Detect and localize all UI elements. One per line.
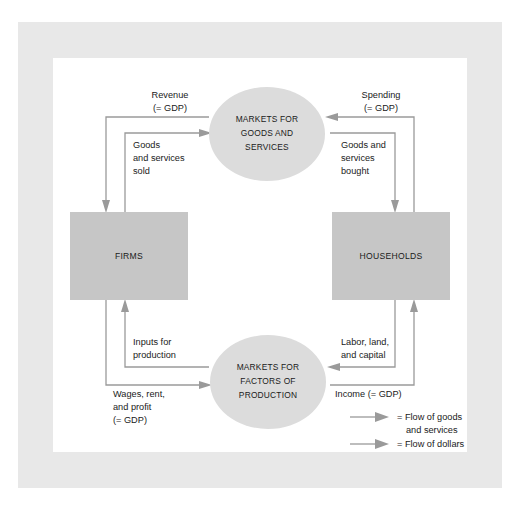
legend-dollars-text-line-1: = Flow of dollars (397, 439, 465, 449)
label-goods-bought: Goods and services bought (341, 140, 386, 176)
label-spending: Spending (= GDP) (362, 90, 401, 113)
label-revenue-line-2: (= GDP) (153, 103, 187, 113)
label-income-line-1: Income (= GDP) (335, 389, 402, 399)
label-goods-sold: Goods and services sold (133, 140, 185, 176)
label-goods-sold-line-2: and services (133, 153, 185, 163)
legend-item-goods: = Flow of goods and services (350, 412, 463, 435)
arrow-right-icon (375, 439, 389, 449)
arrow-head-left-labor (327, 363, 340, 371)
markets-factors-line-3: PRODUCTION (239, 390, 297, 400)
label-income: Income (= GDP) (335, 389, 402, 399)
arrow-head-down-firms-revenue (102, 200, 110, 213)
arrow-head-down-households-goods (391, 200, 399, 213)
households-label: HOUSEHOLDS (359, 251, 422, 261)
label-spending-line-2: (= GDP) (364, 103, 398, 113)
label-revenue-line-1: Revenue (152, 90, 189, 100)
label-goods-sold-line-3: sold (133, 166, 150, 176)
node-households[interactable]: HOUSEHOLDS (332, 212, 450, 300)
firms-label: FIRMS (115, 251, 143, 261)
label-labor-line-1: Labor, land, (341, 337, 389, 347)
label-goods-bought-line-2: services (341, 153, 375, 163)
markets-goods-line-3: SERVICES (245, 142, 289, 152)
label-labor-line-2: and capital (341, 350, 385, 360)
arrow-head-up-households-income (410, 299, 418, 312)
circular-flow-svg: FIRMS HOUSEHOLDS MARKETS FOR GOODS AND S… (0, 0, 520, 511)
flow-revenue (102, 117, 209, 213)
label-inputs: Inputs for production (133, 337, 176, 360)
label-wages-line-2: and profit (113, 402, 152, 412)
circular-flow-diagram-page: FIRMS HOUSEHOLDS MARKETS FOR GOODS AND S… (0, 0, 520, 511)
label-spending-line-1: Spending (362, 90, 401, 100)
label-inputs-line-2: production (133, 350, 176, 360)
markets-factors-line-1: MARKETS FOR (237, 362, 300, 372)
arrow-head-up-firms-inputs (121, 299, 129, 312)
markets-goods-line-2: GOODS AND (241, 128, 294, 138)
label-wages-line-3: (= GDP) (113, 415, 147, 425)
node-markets-factors[interactable]: MARKETS FOR FACTORS OF PRODUCTION (210, 335, 326, 429)
legend: = Flow of goods and services = Flow of d… (350, 412, 465, 449)
arrow-right-icon (375, 412, 389, 422)
legend-goods-text-line-2: and services (406, 425, 458, 435)
markets-factors-line-2: FACTORS OF (240, 376, 295, 386)
flow-labor (327, 300, 395, 371)
node-firms[interactable]: FIRMS (70, 212, 188, 300)
label-inputs-line-1: Inputs for (133, 337, 171, 347)
label-revenue: Revenue (= GDP) (152, 90, 189, 113)
label-goods-bought-line-1: Goods and (341, 140, 386, 150)
label-wages: Wages, rent, and profit (= GDP) (113, 389, 165, 425)
legend-item-dollars: = Flow of dollars (350, 439, 465, 449)
flow-spending-line (334, 117, 414, 212)
markets-goods-line-1: MARKETS FOR (236, 114, 299, 124)
legend-goods-text-line-1: = Flow of goods (397, 412, 463, 422)
label-goods-sold-line-1: Goods (133, 140, 160, 150)
label-labor: Labor, land, and capital (341, 337, 389, 360)
arrow-head-left-spending (325, 113, 338, 121)
label-goods-bought-line-3: bought (341, 166, 370, 176)
node-markets-goods[interactable]: MARKETS FOR GOODS AND SERVICES (209, 87, 325, 181)
label-wages-line-1: Wages, rent, (113, 389, 165, 399)
